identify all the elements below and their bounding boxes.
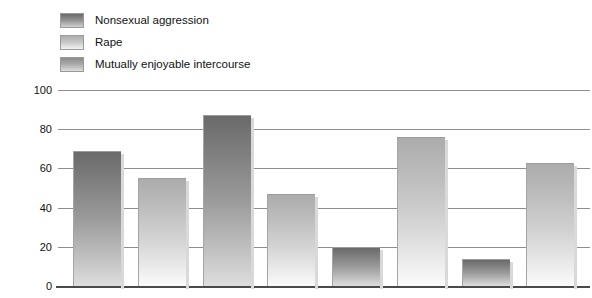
y-axis-tick-label: 100: [6, 85, 52, 96]
y-axis-tick-label: 80: [6, 124, 52, 135]
bar-shadow-edge: [445, 140, 448, 289]
bar: [267, 194, 315, 286]
bar-shadow-edge: [315, 197, 318, 289]
bar-fill: [332, 247, 380, 286]
y-axis-tick-label: 60: [6, 163, 52, 174]
bar-shadow-edge: [574, 166, 577, 289]
gridline: [58, 168, 590, 169]
legend-swatch-icon: [60, 57, 84, 72]
bar: [526, 163, 574, 286]
bar-fill: [526, 163, 574, 286]
chart-legend: Nonsexual aggression Rape Mutually enjoy…: [60, 10, 440, 76]
legend-swatch-icon: [60, 13, 84, 28]
bar-chart: Nonsexual aggression Rape Mutually enjoy…: [0, 0, 592, 298]
plot-area: [72, 90, 590, 286]
legend-item-label: Mutually enjoyable intercourse: [95, 58, 250, 71]
bar: [462, 259, 510, 286]
bar-fill: [267, 194, 315, 286]
gridline: [58, 90, 590, 91]
bar-fill: [397, 137, 445, 286]
gridline: [58, 129, 590, 130]
bar-shadow-edge: [251, 118, 254, 289]
bar-fill: [203, 115, 251, 286]
bar-fill: [462, 259, 510, 286]
bar-shadow-edge: [186, 181, 189, 289]
bar-fill: [138, 178, 186, 286]
bar-shadow-edge: [121, 154, 124, 289]
y-axis-tick-label: 20: [6, 242, 52, 253]
y-axis-tick-label: 0: [6, 281, 52, 292]
bar: [332, 247, 380, 286]
bar-shadow-edge: [510, 262, 513, 289]
legend-item-nonsexual-aggression: Nonsexual aggression: [60, 10, 440, 31]
bar: [397, 137, 445, 286]
legend-item-label: Nonsexual aggression: [95, 14, 209, 27]
legend-item-label: Rape: [95, 36, 123, 49]
bar-fill: [73, 151, 121, 286]
bar: [138, 178, 186, 286]
legend-swatch-icon: [60, 35, 84, 50]
bar-shadow-edge: [380, 250, 383, 289]
bar: [73, 151, 121, 286]
y-axis-tick-labels: 020406080100: [0, 90, 62, 286]
legend-item-rape: Rape: [60, 32, 440, 53]
y-axis-tick-label: 40: [6, 203, 52, 214]
bar: [203, 115, 251, 286]
legend-item-mutually-enjoyable-intercourse: Mutually enjoyable intercourse: [60, 54, 440, 75]
